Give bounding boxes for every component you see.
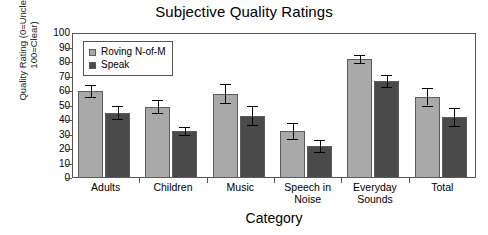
error-bar-cap [422, 106, 433, 107]
legend-swatch-icon-series-2 [89, 62, 96, 69]
y-axis-tick-label: 30 [30, 130, 70, 140]
y-axis-tick-label: 70 [30, 72, 70, 82]
legend-item-series-1: Roving N-of-M [89, 46, 165, 58]
bar-group [341, 33, 408, 178]
legend-swatch-icon-series-1 [89, 49, 96, 56]
x-axis-category-label-line: Speech in [274, 182, 341, 194]
bar-roving [145, 107, 170, 178]
error-bar-cap [287, 123, 298, 124]
error-bar [387, 75, 388, 87]
error-bar-cap [314, 140, 325, 141]
bar-roving [78, 91, 103, 178]
y-axis-tick-label: 0 [30, 173, 70, 183]
bar-speak [374, 81, 399, 178]
chart-figure: Subjective Quality Ratings Quality Ratin… [0, 0, 488, 235]
error-bar-cap [112, 119, 123, 120]
error-bar-cap [422, 88, 433, 89]
error-bar-cap [354, 63, 365, 64]
error-bar-cap [381, 87, 392, 88]
bar-roving [415, 97, 440, 178]
y-axis-tick-label: 60 [30, 86, 70, 96]
y-axis-tick-label: 40 [30, 115, 70, 125]
error-bar [91, 85, 92, 97]
bar-group [409, 33, 476, 178]
error-bar [293, 123, 294, 139]
bar-speak [105, 113, 130, 178]
error-bar-cap [220, 84, 231, 85]
error-bar-cap [449, 108, 460, 109]
error-bar-cap [152, 100, 163, 101]
legend-label-series-2: Speak [101, 60, 129, 70]
y-axis-tick-mark [66, 178, 72, 179]
chart-legend: Roving N-of-M Speak [83, 41, 173, 76]
x-axis-category-label-line: Sounds [341, 194, 408, 206]
error-bar-cap [179, 135, 190, 136]
error-bar-cap [354, 55, 365, 56]
error-bar-cap [112, 106, 123, 107]
error-bar [427, 88, 428, 105]
error-bar-cap [287, 139, 298, 140]
error-bar [360, 55, 361, 64]
x-axis-category-label: Adults [72, 182, 139, 194]
x-axis-category-label: EverydaySounds [341, 182, 408, 205]
bar-group [274, 33, 341, 178]
x-axis-category-label-line: Children [139, 182, 206, 194]
error-bar [118, 106, 119, 119]
y-axis-tick-label: 100 [30, 28, 70, 38]
error-bar [454, 108, 455, 125]
legend-label-series-1: Roving N-of-M [101, 47, 165, 57]
bar-speak [172, 131, 197, 178]
error-bar-cap [152, 113, 163, 114]
y-axis-tick-label: 20 [30, 144, 70, 154]
error-bar [320, 140, 321, 152]
x-axis-category-label-line: Noise [274, 194, 341, 206]
x-axis-category-label: Speech inNoise [274, 182, 341, 205]
x-axis-title: Category [72, 210, 476, 226]
error-bar [158, 100, 159, 113]
error-bar-cap [85, 85, 96, 86]
bar-group [207, 33, 274, 178]
bar-roving [347, 59, 372, 178]
error-bar-cap [179, 127, 190, 128]
x-axis-category-label-line: Total [409, 182, 476, 194]
error-bar [225, 84, 226, 103]
y-axis-tick-label: 80 [30, 57, 70, 67]
error-bar-cap [247, 106, 258, 107]
x-axis-category-label: Total [409, 182, 476, 194]
y-axis-tick-label: 50 [30, 101, 70, 111]
x-axis-category-label: Children [139, 182, 206, 194]
error-bar-cap [314, 152, 325, 153]
y-axis-tick-label: 10 [30, 159, 70, 169]
y-axis-title-line1: Quality Rating (0=Unclear, [17, 0, 29, 101]
error-bar-cap [247, 125, 258, 126]
error-bar-cap [381, 75, 392, 76]
y-axis-tick-label: 90 [30, 43, 70, 53]
x-axis-category-label-line: Everyday [341, 182, 408, 194]
x-axis-category-label: Music [207, 182, 274, 194]
x-axis-category-label-line: Music [207, 182, 274, 194]
error-bar-cap [220, 103, 231, 104]
error-bar [185, 127, 186, 136]
chart-title: Subjective Quality Ratings [0, 3, 488, 20]
legend-item-series-2: Speak [89, 59, 165, 71]
error-bar-cap [449, 126, 460, 127]
error-bar [252, 106, 253, 125]
error-bar-cap [85, 97, 96, 98]
bar-roving [213, 94, 238, 178]
x-axis-category-label-line: Adults [72, 182, 139, 194]
